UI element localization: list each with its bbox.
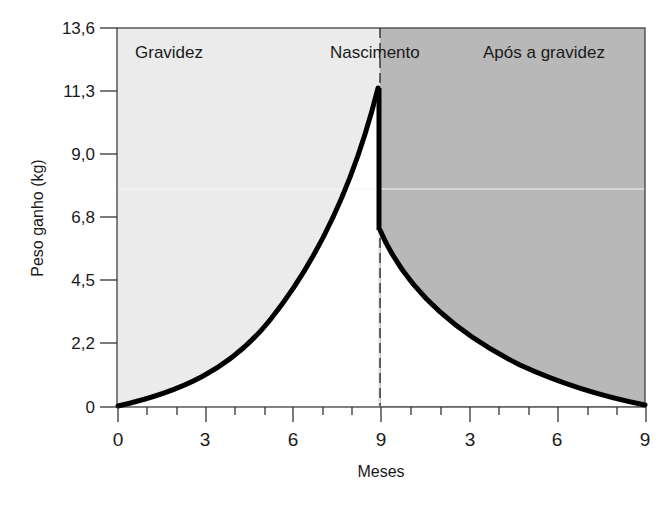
- x-tick-6-after: 6: [552, 429, 563, 450]
- y-axis: [100, 28, 117, 407]
- y-tick-0: 0: [86, 398, 95, 417]
- region-label-birth: Nascimento: [330, 43, 420, 62]
- x-tick-labels: 0 3 6 9 3 6 9: [113, 429, 651, 450]
- weight-gain-chart: 13,6 11,3 9,0 6,8 4,5 2,2 0 0 3 6 9 3 6: [0, 0, 671, 505]
- x-tick-3: 3: [200, 429, 211, 450]
- x-tick-0: 0: [113, 429, 124, 450]
- region-label-after: Após a gravidez: [483, 43, 605, 62]
- y-tick-13-6: 13,6: [62, 19, 95, 38]
- y-tick-labels: 13,6 11,3 9,0 6,8 4,5 2,2 0: [62, 19, 95, 417]
- y-tick-2-2: 2,2: [71, 334, 95, 353]
- y-axis-title: Peso ganho (kg): [29, 159, 46, 276]
- y-tick-11-3: 11,3: [63, 82, 95, 101]
- x-tick-9: 9: [376, 429, 387, 450]
- x-tick-6: 6: [288, 429, 299, 450]
- y-tick-9-0: 9,0: [71, 145, 95, 164]
- x-axis-title: Meses: [357, 463, 404, 480]
- x-axis: [118, 407, 646, 422]
- y-tick-4-5: 4,5: [71, 271, 95, 290]
- x-tick-3-after: 3: [465, 429, 476, 450]
- region-label-pregnancy: Gravidez: [135, 43, 203, 62]
- y-tick-6-8: 6,8: [71, 208, 95, 227]
- x-tick-9-after: 9: [640, 429, 651, 450]
